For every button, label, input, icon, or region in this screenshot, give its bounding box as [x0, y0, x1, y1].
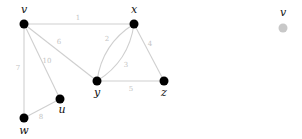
- edge-weight-y-z: 5: [129, 85, 133, 93]
- node-label-x: x: [131, 3, 138, 16]
- node-y: [93, 77, 102, 86]
- edge-labels-layer: 1610782345: [16, 14, 153, 121]
- edge-weight-x-z: 4: [148, 40, 153, 48]
- edge-x-y-right: [97, 24, 134, 81]
- node-z: [160, 77, 169, 86]
- legend: v: [279, 6, 288, 33]
- node-label-y: y: [93, 86, 101, 99]
- node-x: [130, 20, 139, 29]
- graph-diagram: 1610782345 vxyzuw v: [0, 0, 302, 139]
- edge-x-y-left: [97, 24, 134, 81]
- edge-weight-w-u: 8: [39, 113, 43, 121]
- node-label-u: u: [58, 103, 65, 116]
- edge-weight-v-u: 10: [43, 57, 52, 65]
- edges-layer: [24, 24, 164, 118]
- node-w: [20, 114, 29, 123]
- legend-node-label: v: [280, 6, 287, 19]
- edge-weight-v-y: 6: [57, 38, 62, 46]
- node-label-z: z: [160, 86, 167, 99]
- edge-weight-v-x: 1: [76, 14, 80, 22]
- edge-v-y: [24, 24, 97, 81]
- edge-weight-x-y-right: 3: [124, 61, 128, 69]
- edge-weight-v-w: 7: [16, 64, 20, 72]
- legend-node-dot: [279, 24, 288, 33]
- node-v: [20, 20, 29, 29]
- edge-x-z: [134, 24, 164, 81]
- node-label-v: v: [21, 3, 28, 16]
- node-label-w: w: [19, 124, 29, 137]
- edge-weight-x-y-left: 2: [105, 35, 109, 43]
